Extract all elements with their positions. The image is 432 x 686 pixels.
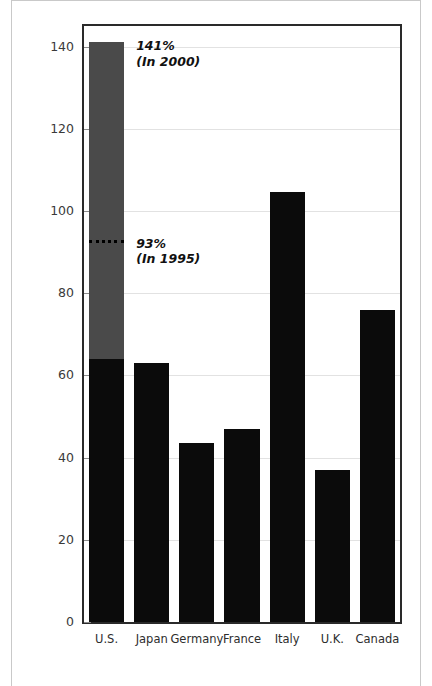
x-label-germany: Germany xyxy=(170,632,223,646)
bar-canada xyxy=(360,310,395,622)
annotation-us-1995: 93%(In 1995) xyxy=(136,236,200,267)
bar-us xyxy=(89,42,124,622)
y-tick-label: 0 xyxy=(28,616,74,629)
annotation-year: (In 2000) xyxy=(136,54,200,70)
y-tick-label: 40 xyxy=(28,451,74,464)
y-tick-label: 120 xyxy=(28,123,74,136)
x-label-italy: Italy xyxy=(275,632,300,646)
gridline xyxy=(84,129,400,130)
annotation-value: 141% xyxy=(136,38,200,54)
annotation-value: 93% xyxy=(136,236,200,252)
y-axis-title: Percent xyxy=(0,270,3,330)
annotation-us-2000: 141%(In 2000) xyxy=(136,38,200,69)
bar-france xyxy=(224,429,259,622)
y-tick-label: 60 xyxy=(28,369,74,382)
gridline xyxy=(84,211,400,212)
bar-japan xyxy=(134,363,169,622)
bar-germany xyxy=(179,443,214,622)
x-label-canada: Canada xyxy=(356,632,400,646)
y-tick-label: 20 xyxy=(28,534,74,547)
page-rule-right xyxy=(420,0,421,686)
gridline xyxy=(84,47,400,48)
y-tick-label: 100 xyxy=(28,205,74,218)
annotation-year: (In 1995) xyxy=(136,251,200,267)
x-label-us: U.S. xyxy=(95,632,118,646)
plot-area: 141%(In 2000)93%(In 1995) xyxy=(82,24,402,624)
bar-segment-growth xyxy=(89,42,124,358)
marker-line-1995 xyxy=(89,240,124,243)
gridline xyxy=(84,375,400,376)
y-tick-mark xyxy=(84,622,91,623)
bar-uk xyxy=(315,470,350,622)
bar-italy xyxy=(270,192,305,622)
x-label-japan: Japan xyxy=(136,632,168,646)
y-tick-label: 80 xyxy=(28,287,74,300)
x-label-uk: U.K. xyxy=(321,632,344,646)
y-tick-label: 140 xyxy=(28,40,74,53)
chart-title xyxy=(11,0,421,6)
page-rule-left xyxy=(11,0,12,686)
gridline xyxy=(84,293,400,294)
chart-page: Percent 141%(In 2000)93%(In 1995) 020406… xyxy=(0,0,432,686)
x-label-france: France xyxy=(223,632,261,646)
